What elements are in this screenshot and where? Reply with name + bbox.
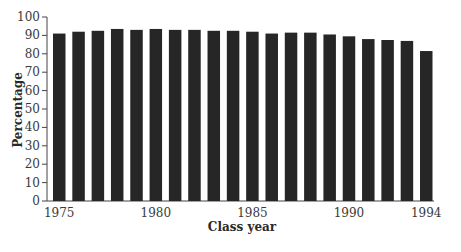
bar-1976 <box>72 32 85 201</box>
bar-1991 <box>362 39 375 201</box>
bar-1993 <box>401 41 414 201</box>
bar-chart: 0102030405060708090100 19751980198519901… <box>0 0 461 252</box>
y-tick-label: 80 <box>25 47 40 61</box>
bar-1975 <box>53 34 66 201</box>
bar-1983 <box>208 31 221 201</box>
bar-1985 <box>246 32 259 201</box>
x-tick-label: 1994 <box>411 206 442 220</box>
y-tick-label: 90 <box>25 28 40 42</box>
y-tick-label: 100 <box>17 10 40 24</box>
bars <box>53 29 433 201</box>
x-tick-label: 1985 <box>237 206 268 220</box>
x-tick-label: 1975 <box>44 206 75 220</box>
bar-1980 <box>150 29 163 201</box>
y-tick-label: 10 <box>25 176 40 190</box>
bar-1987 <box>285 33 298 201</box>
bar-1979 <box>130 30 143 201</box>
bar-1986 <box>265 34 278 201</box>
x-tick-label: 1990 <box>334 206 365 220</box>
y-tick-label: 30 <box>25 139 40 153</box>
y-tick-label: 50 <box>25 102 40 116</box>
bar-1994 <box>420 51 433 201</box>
bar-1978 <box>111 29 124 201</box>
y-axis-title: Percentage <box>11 72 25 148</box>
bar-1982 <box>188 30 201 201</box>
bar-1984 <box>227 31 240 201</box>
bar-1990 <box>343 36 356 201</box>
x-axis: 19751980198519901994 <box>44 201 442 220</box>
y-tick-label: 0 <box>32 194 40 208</box>
y-tick-label: 40 <box>25 120 40 134</box>
y-tick-label: 20 <box>25 157 40 171</box>
y-tick-label: 70 <box>25 65 40 79</box>
x-axis-title: Class year <box>208 220 277 234</box>
bar-1981 <box>169 30 182 201</box>
bar-1989 <box>323 34 336 201</box>
y-tick-label: 60 <box>25 84 40 98</box>
bar-1977 <box>92 31 105 201</box>
bar-1988 <box>304 33 317 201</box>
x-tick-label: 1980 <box>141 206 172 220</box>
bar-1992 <box>381 40 394 201</box>
